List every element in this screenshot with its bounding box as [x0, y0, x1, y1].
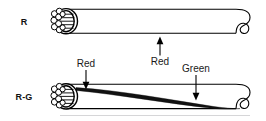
callout-green-label: Green [182, 63, 210, 74]
cable-body-r [66, 9, 250, 33]
cable-row-r: R [21, 8, 250, 34]
callout-red-bottom: Red [77, 58, 95, 90]
cable-body-rg [66, 84, 250, 108]
row-label-r: R [21, 17, 28, 27]
figure-canvas: R Red [0, 0, 266, 121]
callout-red-top-label: Red [151, 56, 169, 67]
cable-rg-pigtail-end [236, 84, 250, 108]
cable-r-pigtail-end [236, 9, 250, 33]
row-label-rg: R-G [15, 92, 32, 102]
cable-rg-dark-wedge [76, 88, 240, 109]
callout-green: Green [182, 63, 210, 101]
cable-r-bundle-end [51, 8, 78, 34]
callout-green-arrow-head [193, 93, 200, 101]
cable-rg-bundle-end [51, 83, 78, 109]
callout-red-top: Red [151, 37, 169, 68]
cable-diagram-svg: R Red [0, 0, 266, 121]
callout-red-bottom-label: Red [77, 58, 95, 69]
callout-red-top-arrow-head [157, 37, 164, 45]
cable-row-rg: R-G [15, 83, 250, 109]
